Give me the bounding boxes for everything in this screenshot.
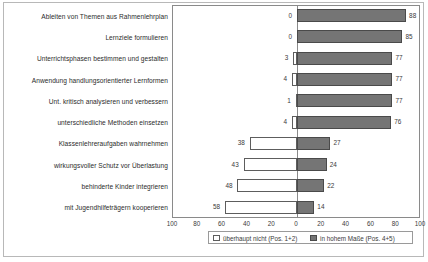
bar-row: 4324	[173, 155, 419, 176]
bar-segment-negative	[250, 137, 297, 150]
bar-segment-negative	[225, 201, 297, 214]
bar-value-negative: 0	[288, 32, 292, 41]
bar-value-negative: 1	[287, 96, 291, 105]
bar-segment-positive	[297, 73, 392, 86]
x-axis-tick-label: 40	[243, 219, 250, 228]
category-label: behinderte Kinder integrieren	[6, 183, 168, 191]
category-label: Unt. kritisch analysieren und verbessern	[6, 98, 168, 106]
x-axis-tick-label: 100	[167, 219, 178, 228]
plot-inner: 0880853774771774763827432448225814	[173, 6, 419, 217]
category-axis-labels: Ableiten von Themen aus RahmenlehrplanLe…	[6, 6, 170, 218]
legend-swatch-icon	[213, 235, 220, 241]
bar-row: 085	[173, 27, 419, 48]
category-label: wirkungsvoller Schutz vor Überlastung	[6, 162, 168, 170]
bar-value-positive: 27	[333, 138, 340, 147]
bar-value-negative: 4	[283, 74, 287, 83]
plot-area: 0880853774771774763827432448225814	[172, 5, 420, 218]
bar-row: 3827	[173, 134, 419, 155]
category-label: Lernziele formulieren	[6, 34, 168, 42]
category-label: Unterrichtsphasen bestimmen und gestalte…	[6, 55, 168, 63]
x-axis-tick-label: 60	[367, 219, 374, 228]
bar-row: 377	[173, 49, 419, 70]
bar-value-positive: 77	[395, 96, 402, 105]
legend-label: in hohem Maße (Pos. 4+5)	[320, 234, 395, 243]
bar-row: 4822	[173, 176, 419, 197]
bar-row: 476	[173, 113, 419, 134]
bar-segment-positive	[297, 158, 327, 171]
bar-row: 477	[173, 70, 419, 91]
x-axis-tick-label: 20	[268, 219, 275, 228]
bar-row: 5814	[173, 198, 419, 219]
chart-figure: Ableiten von Themen aus RahmenlehrplanLe…	[0, 0, 428, 262]
bar-segment-positive	[297, 137, 330, 150]
bar-value-positive: 22	[327, 181, 334, 190]
bar-segment-positive	[297, 179, 324, 192]
bar-row: 088	[173, 6, 419, 27]
bar-value-negative: 0	[288, 11, 292, 20]
bar-value-negative: 3	[285, 53, 289, 62]
legend-label: überhaupt nicht (Pos. 1+2)	[223, 234, 297, 243]
bar-value-positive: 24	[330, 160, 337, 169]
bar-segment-positive	[297, 116, 391, 129]
bar-value-negative: 43	[232, 160, 239, 169]
bar-segment-positive	[297, 94, 392, 107]
x-axis-tick-label: 80	[193, 219, 200, 228]
bar-segment-negative	[237, 179, 297, 192]
legend-entry: überhaupt nicht (Pos. 1+2)	[213, 234, 297, 243]
bar-value-positive: 88	[409, 11, 416, 20]
bar-value-positive: 77	[395, 74, 402, 83]
bar-value-positive: 14	[317, 202, 324, 211]
category-label: mit Jugendhilfeträgern kooperieren	[6, 204, 168, 212]
x-axis-tick-label: 0	[294, 219, 298, 228]
x-axis-ticks: 10080604020020406080100	[172, 219, 420, 230]
bar-row: 177	[173, 91, 419, 112]
bar-value-negative: 48	[225, 181, 232, 190]
chart-legend: überhaupt nicht (Pos. 1+2)in hohem Maße …	[208, 231, 413, 244]
category-label: unterschiedliche Methoden einsetzen	[6, 119, 168, 127]
category-label: Ableiten von Themen aus Rahmenlehrplan	[6, 13, 168, 21]
bar-segment-negative	[244, 158, 297, 171]
bar-value-positive: 85	[405, 32, 412, 41]
x-axis-tick-label: 20	[317, 219, 324, 228]
x-axis-tick-label: 60	[218, 219, 225, 228]
bar-value-negative: 38	[238, 138, 245, 147]
bar-segment-positive	[297, 30, 402, 43]
x-axis-tick-label: 80	[392, 219, 399, 228]
bar-value-positive: 76	[394, 117, 401, 126]
category-label: Klassenlehreraufgaben wahrnehmen	[6, 140, 168, 148]
bar-segment-positive	[297, 52, 392, 65]
bar-value-negative: 58	[213, 202, 220, 211]
x-axis-tick-label: 100	[415, 219, 426, 228]
bar-segment-positive	[297, 201, 314, 214]
bar-value-negative: 4	[283, 117, 287, 126]
bar-value-positive: 77	[395, 53, 402, 62]
bar-segment-positive	[297, 9, 406, 22]
legend-swatch-icon	[310, 235, 317, 241]
x-axis-tick-label: 40	[342, 219, 349, 228]
category-label: Anwendung handlungsorientierter Lernform…	[6, 77, 168, 85]
legend-entry: in hohem Maße (Pos. 4+5)	[310, 234, 395, 243]
